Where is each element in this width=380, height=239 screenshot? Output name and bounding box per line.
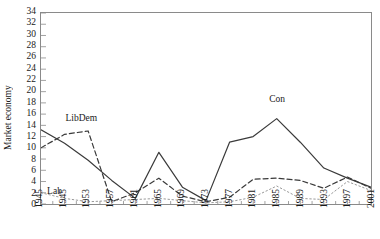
- series-annotation-con: Con: [269, 94, 285, 104]
- x-tick-label: 1953: [82, 189, 92, 208]
- chart-root: Market economy 0246810121416182022242628…: [0, 0, 380, 239]
- x-tick-label: 1989: [295, 189, 305, 208]
- x-tick-label: 1977: [224, 189, 234, 208]
- x-tick-label: 1973: [201, 189, 211, 208]
- series-annotation-lab: Lab: [47, 186, 62, 196]
- x-tick-label: 1981: [248, 189, 258, 208]
- x-tick-label: 1965: [153, 189, 163, 208]
- x-tick-label: 1945: [35, 189, 45, 208]
- x-tick-label: 2001: [367, 189, 377, 208]
- x-tick-label: 1993: [319, 189, 329, 208]
- x-tick-label: 1985: [272, 189, 282, 208]
- series-annotation-libdem: LibDem: [66, 113, 98, 123]
- x-tick-label: 1961: [129, 189, 139, 208]
- x-axis-tick-labels: 1945194519531957196119651969197319771981…: [0, 0, 380, 239]
- x-tick-label: 1957: [106, 189, 116, 208]
- x-tick-label: 1969: [177, 189, 187, 208]
- x-tick-label: 1997: [343, 189, 353, 208]
